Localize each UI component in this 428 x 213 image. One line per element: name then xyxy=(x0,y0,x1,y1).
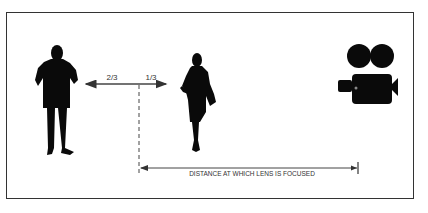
diagram-canvas: 2/3 1/3 DISTANCE AT WHICH LENS IS FOCUSE… xyxy=(0,0,428,213)
focus-distance-label: DISTANCE AT WHICH LENS IS FOCUSED xyxy=(189,170,315,177)
movie-camera-icon xyxy=(338,44,398,104)
man-silhouette-icon xyxy=(35,45,78,155)
woman-silhouette-icon xyxy=(180,53,216,152)
near-fraction-label: 2/3 xyxy=(106,73,118,82)
far-fraction-label: 1/3 xyxy=(145,73,157,82)
